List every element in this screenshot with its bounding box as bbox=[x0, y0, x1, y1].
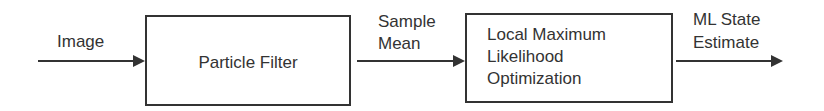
node-local-ml-label: Local Maximum Likelihood Optimization bbox=[487, 24, 606, 90]
arrowhead-icon bbox=[771, 55, 783, 67]
node-particle-filter-label: Particle Filter bbox=[147, 52, 349, 74]
arrowhead-icon bbox=[453, 55, 465, 67]
edge-label-mean: Mean bbox=[378, 33, 421, 55]
node-particle-filter: Particle Filter bbox=[145, 15, 351, 106]
node-local-ml-optimization: Local Maximum Likelihood Optimization bbox=[465, 13, 673, 103]
node-local-ml-line-2: Likelihood bbox=[487, 46, 606, 68]
edge-label-image: Image bbox=[57, 31, 104, 53]
arrowhead-icon bbox=[133, 55, 145, 67]
edge-label-estimate: Estimate bbox=[693, 32, 759, 54]
node-local-ml-line-3: Optimization bbox=[487, 68, 606, 90]
arrow-ml-to-output bbox=[676, 60, 772, 62]
arrow-particle-filter-to-ml bbox=[357, 60, 454, 62]
arrow-image-to-particle-filter bbox=[38, 60, 134, 62]
edge-label-ml-state: ML State bbox=[693, 9, 760, 31]
node-local-ml-line-1: Local Maximum bbox=[487, 24, 606, 46]
edge-label-sample: Sample bbox=[378, 11, 436, 33]
